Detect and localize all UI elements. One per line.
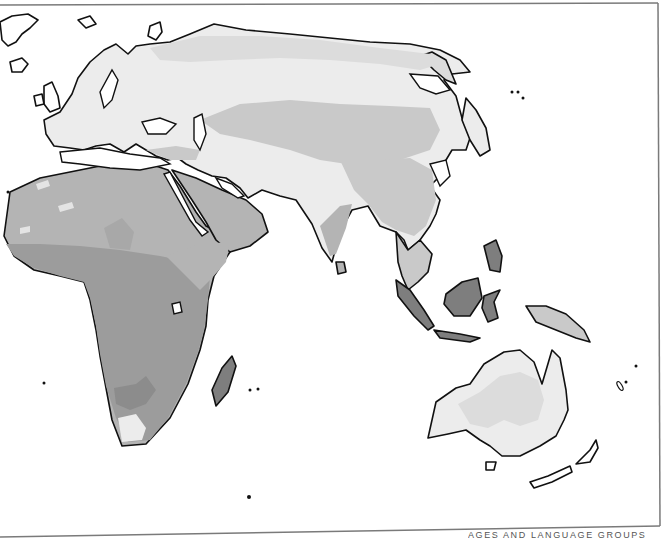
region-new-guinea xyxy=(526,306,590,342)
region-tasmania xyxy=(486,462,496,470)
island-cape-verde xyxy=(7,191,10,194)
map-caption: AGES AND LANGUAGE GROUPS xyxy=(468,531,646,540)
region-borneo xyxy=(444,278,482,316)
frame-right xyxy=(658,3,660,526)
region-sulawesi xyxy=(482,290,500,322)
region-british-isles xyxy=(44,82,60,112)
island-pacific-3 xyxy=(522,97,525,100)
island-pacific-2 xyxy=(511,91,514,94)
world-map xyxy=(0,0,665,540)
region-greenland xyxy=(0,14,38,46)
region-iceland xyxy=(10,58,28,72)
region-java xyxy=(434,330,480,342)
zone-sub-saharan xyxy=(6,244,210,442)
region-sumatra xyxy=(396,280,434,330)
region-new-zealand-south xyxy=(530,466,572,488)
region-novaya-zemlya xyxy=(148,22,162,40)
island-fiji-2 xyxy=(625,381,628,384)
frame-top xyxy=(0,3,658,5)
island-new-caledonia xyxy=(616,381,624,392)
region-madagascar xyxy=(212,356,236,406)
lake-victoria xyxy=(172,302,182,314)
region-sri-lanka xyxy=(336,262,346,274)
island-mauritius xyxy=(257,388,260,391)
island-kerguelen xyxy=(247,495,251,499)
island-atlantic-1 xyxy=(43,382,46,385)
island-reunion xyxy=(249,389,252,392)
region-svalbard xyxy=(78,16,96,28)
region-new-zealand-north xyxy=(576,440,598,464)
region-philippines xyxy=(484,240,502,272)
island-pacific-1 xyxy=(517,91,520,94)
region-ireland xyxy=(34,94,44,106)
zone-australia-interior xyxy=(458,372,544,428)
island-fiji-1 xyxy=(635,365,638,368)
